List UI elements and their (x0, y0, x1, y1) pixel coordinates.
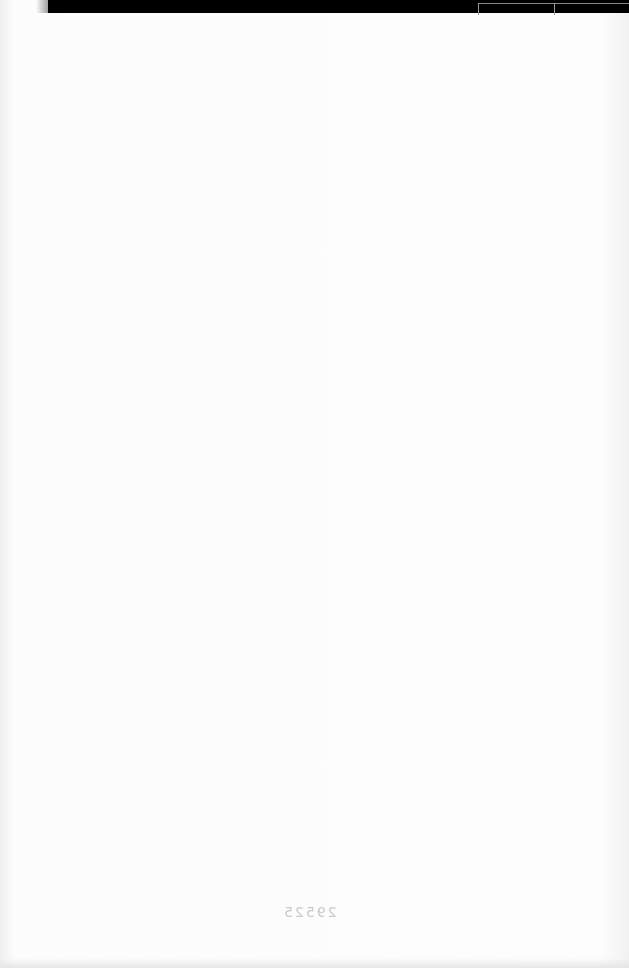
scan-rule-tick (554, 3, 555, 15)
scan-rule-tick (478, 3, 479, 15)
scanned-page: 29525 (0, 0, 629, 968)
bleed-through-page-number: 29525 (282, 904, 337, 920)
scan-bottom-shadow (0, 958, 629, 968)
scan-top-band (48, 0, 629, 13)
